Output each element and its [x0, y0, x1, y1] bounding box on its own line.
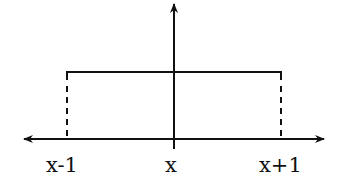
label-x-minus-1: x-1 — [46, 155, 78, 176]
box-function-diagram: x-1 x x+1 — [0, 0, 339, 184]
label-x-plus-1: x+1 — [259, 155, 302, 176]
label-x: x — [165, 155, 177, 176]
